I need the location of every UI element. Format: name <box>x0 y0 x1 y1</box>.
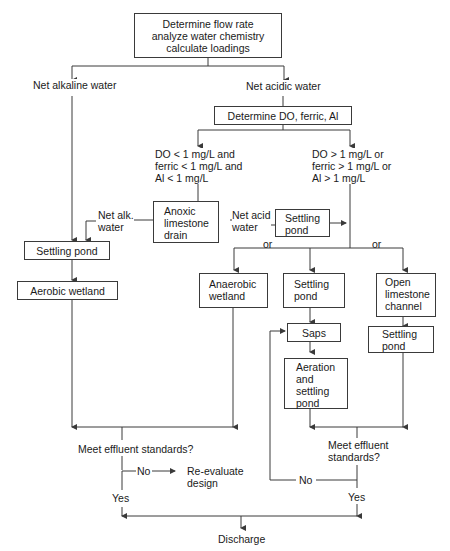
anoxic-limestone-drain-box: Anoxic limestone drain <box>153 201 219 243</box>
saps-box: Saps <box>287 323 341 342</box>
or-left-label: or <box>263 238 272 250</box>
settling-pond-acid-box: Settling pond <box>275 209 330 237</box>
settling-pond-alkaline-box: Settling pond <box>24 241 110 260</box>
net-acidic-water-label: Net acidic water <box>246 80 321 92</box>
determine-flow-rate-box: Determine flow rate analyze water chemis… <box>134 13 282 58</box>
anaerobic-wetland-box: Anaerobic wetland <box>199 273 268 308</box>
flowchart-canvas: Determine flow rate analyze water chemis… <box>0 0 450 551</box>
discharge-label: Discharge <box>218 533 265 545</box>
yes-left-label: Yes <box>112 492 129 504</box>
settling-pond-right-box: Settling pond <box>368 326 434 353</box>
yes-right-label: Yes <box>348 491 365 503</box>
settling-pond-middle-box: Settling pond <box>283 273 345 308</box>
low-metals-condition-label: DO < 1 mg/L and ferric < 1 mg/L and Al <… <box>155 148 242 184</box>
determine-do-ferric-al-box: Determine DO, ferric, Al <box>214 106 352 125</box>
meet-effluent-standards-right-label: Meet effluent standards? <box>328 439 389 463</box>
re-evaluate-design-label: Re-evaluate design <box>187 465 244 489</box>
no-right-label: No <box>299 474 312 486</box>
high-metals-condition-label: DO > 1 mg/L or ferric > 1 mg/L or Al > 1… <box>312 148 391 184</box>
meet-effluent-standards-left-label: Meet effluent standards? <box>78 443 193 455</box>
aerobic-wetland-box: Aerobic wetland <box>17 281 118 300</box>
or-right-label: or <box>372 238 381 250</box>
net-alk-water-label: Net alk. water <box>98 209 134 233</box>
no-left-label: No <box>137 465 150 477</box>
open-limestone-channel-box: Open limestone channel <box>376 273 436 317</box>
net-alkaline-water-label: Net alkaline water <box>33 79 116 91</box>
aeration-settling-pond-box: Aeration and settling pond <box>284 358 348 409</box>
net-acid-water-label: Net acid water <box>232 209 271 233</box>
